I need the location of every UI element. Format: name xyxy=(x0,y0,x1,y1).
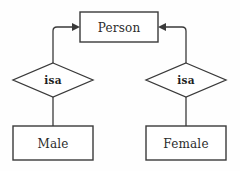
relationship-isa-right[interactable]: isa xyxy=(146,63,226,97)
entity-female-label: Female xyxy=(163,137,208,151)
entity-person-label: Person xyxy=(98,21,141,35)
connector-right-isa-to-person xyxy=(164,27,186,63)
entity-person[interactable]: Person xyxy=(80,12,158,42)
relationship-isa-left[interactable]: isa xyxy=(13,63,93,97)
diagram-canvas: Person Male Female isa isa xyxy=(0,0,240,171)
arrowhead-into-person-left xyxy=(72,23,80,31)
entity-female[interactable]: Female xyxy=(146,126,226,160)
connector-left-isa-to-person xyxy=(53,27,74,63)
relationship-isa-right-label: isa xyxy=(177,74,194,86)
arrowhead-into-person-right xyxy=(158,23,166,31)
entity-male[interactable]: Male xyxy=(13,126,93,160)
connector-group-subtype xyxy=(53,97,186,126)
entity-male-label: Male xyxy=(37,137,68,151)
relationship-isa-left-label: isa xyxy=(44,74,61,86)
isa-hierarchy-diagram: Person Male Female isa isa xyxy=(0,0,240,171)
